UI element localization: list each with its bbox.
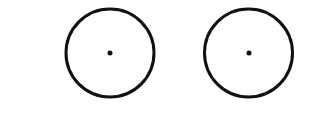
circle-right — [205, 9, 293, 97]
diagram-canvas — [0, 0, 316, 122]
circle-left-center-dot — [108, 51, 113, 56]
circle-left — [66, 9, 154, 97]
circle-right-center-dot — [247, 51, 252, 56]
diagram-svg — [0, 0, 316, 122]
